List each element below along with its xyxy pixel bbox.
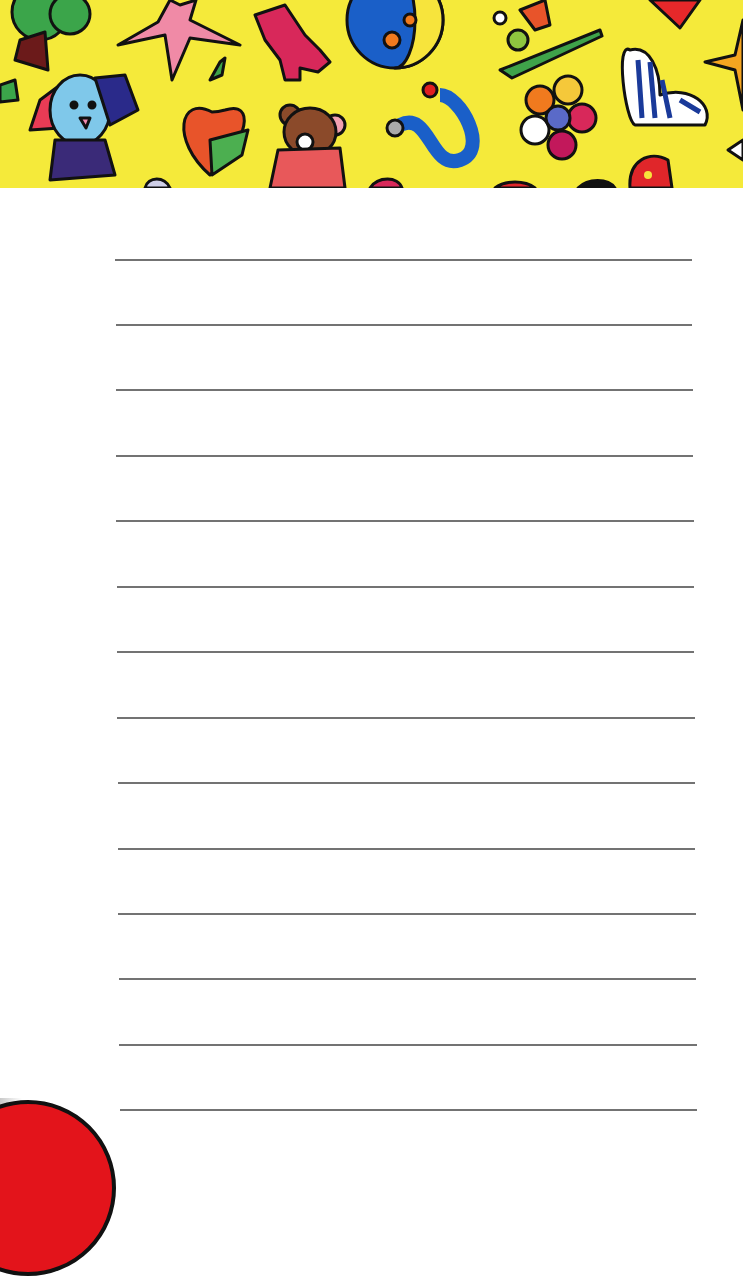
striped-heart-icon	[622, 49, 707, 125]
illustrated-header	[0, 0, 743, 188]
lined-note-paper	[0, 188, 743, 1149]
ruled-line	[117, 651, 694, 653]
heart-icon	[650, 0, 700, 28]
ball-icon	[347, 0, 443, 68]
flower-icon	[521, 76, 596, 159]
ruled-line	[117, 717, 695, 719]
ruled-line	[117, 586, 694, 588]
ruled-line	[118, 913, 696, 915]
ruled-line	[116, 324, 692, 326]
teddy-bear-icon	[270, 105, 345, 188]
ruled-line	[115, 259, 692, 261]
bird-icon	[494, 0, 602, 78]
ruled-line	[120, 1109, 697, 1111]
ruled-line	[119, 978, 696, 980]
star-right-icon	[705, 20, 743, 110]
tree-icon	[12, 0, 90, 70]
apple-icon	[184, 58, 248, 175]
ruled-line	[119, 1044, 697, 1046]
dog-icon	[30, 75, 138, 180]
ruled-line	[116, 455, 693, 457]
ruled-line	[116, 389, 693, 391]
header-illustrations	[0, 0, 743, 188]
ruled-line	[118, 848, 695, 850]
snake-icon	[387, 83, 473, 161]
bear-icon	[255, 5, 330, 80]
dotted-heart-icon	[630, 156, 672, 188]
ruled-line	[118, 782, 695, 784]
ruled-line	[116, 520, 694, 522]
